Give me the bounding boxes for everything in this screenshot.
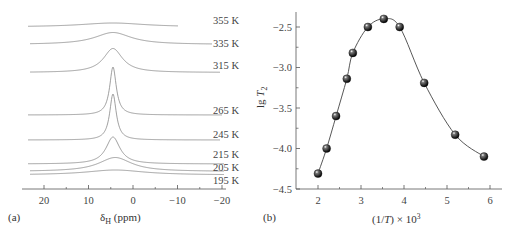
spectrum-245k <box>28 94 220 140</box>
x-tick-label: 3 <box>358 195 363 206</box>
temperature-label: 335 K <box>213 38 239 49</box>
data-point <box>364 23 372 31</box>
data-point <box>332 112 340 120</box>
x-tick-label: −20 <box>214 195 230 206</box>
x-tick-label: 2 <box>315 195 320 206</box>
temperature-label: 355 K <box>213 15 239 26</box>
x-ticks-b: 23456 <box>315 185 492 206</box>
y-tick-label: −3.5 <box>273 103 292 114</box>
x-tick-label: 6 <box>487 195 492 206</box>
nmr-spectra <box>28 23 224 175</box>
data-point <box>396 23 404 31</box>
temperature-label: 205 K <box>213 162 239 173</box>
data-point <box>343 75 351 83</box>
x-tick-label: 20 <box>39 195 50 206</box>
y-tick-label: −2.5 <box>273 22 292 33</box>
y-tick-label: −3.0 <box>273 62 292 73</box>
spectrum-215k <box>28 137 224 164</box>
data-point <box>451 131 459 139</box>
temperature-label: 245 K <box>213 129 239 140</box>
temperature-label: 315 K <box>213 60 239 71</box>
figure: 355 K335 K315 K265 K245 K215 K205 K195 K… <box>0 0 511 236</box>
panel-label-a: (a) <box>8 211 21 224</box>
spectrum-335k <box>30 33 212 44</box>
temperature-label: 195 K <box>213 175 239 186</box>
x-axis-label-b: (1/T) × 103 <box>372 212 421 226</box>
data-points <box>314 15 488 178</box>
x-tick-label: −10 <box>169 195 185 206</box>
temperature-labels: 355 K335 K315 K265 K245 K215 K205 K195 K <box>213 15 239 186</box>
x-axis-label-a: δH (ppm) <box>100 211 141 226</box>
panel-b: 23456 −2.5−3.0−3.5−4.0−4.5 (b) (1/T) × 1… <box>254 12 502 226</box>
data-point <box>380 15 388 23</box>
panel-a: 355 K335 K315 K265 K245 K215 K205 K195 K… <box>8 15 239 226</box>
y-axis-label-b: lg T2 <box>254 87 269 108</box>
spectrum-315k <box>30 49 220 73</box>
x-tick-label: 10 <box>83 195 94 206</box>
spectrum-355k <box>28 23 178 26</box>
data-point <box>323 145 331 153</box>
y-tick-label: −4.5 <box>273 184 292 195</box>
fit-curve <box>318 19 484 174</box>
panel-label-b: (b) <box>263 211 276 224</box>
x-tick-label: 0 <box>130 195 135 206</box>
temperature-label: 215 K <box>213 149 239 160</box>
spectrum-265k <box>28 67 222 115</box>
x-tick-label: 4 <box>401 195 407 206</box>
data-point <box>314 170 322 178</box>
x-tick-label: 5 <box>444 195 449 206</box>
y-tick-label: −4.0 <box>273 143 292 154</box>
data-point <box>480 153 488 161</box>
data-point <box>420 79 428 87</box>
spectrum-205k <box>30 158 224 172</box>
temperature-label: 265 K <box>213 105 239 116</box>
data-point <box>349 49 357 57</box>
x-ticks-a: 20100−10−20 <box>39 185 230 206</box>
